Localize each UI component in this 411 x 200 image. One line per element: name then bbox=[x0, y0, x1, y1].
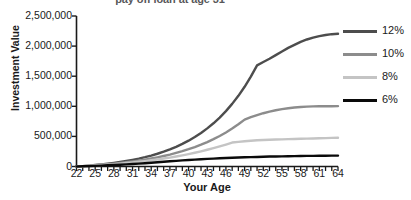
legend-label: 8% bbox=[382, 70, 398, 82]
legend: 12%10%8%6% bbox=[343, 22, 411, 114]
investment-growth-chart: pay off loan at age 31 Investment Value … bbox=[0, 0, 411, 200]
legend-item[interactable]: 10% bbox=[343, 45, 411, 68]
series-line-10pct bbox=[77, 106, 339, 166]
series-line-6pct bbox=[77, 156, 339, 167]
series-line-12pct bbox=[77, 34, 339, 167]
data-series-group bbox=[77, 34, 339, 167]
legend-item[interactable]: 12% bbox=[343, 22, 411, 45]
legend-color-swatch bbox=[343, 53, 377, 56]
legend-item[interactable]: 6% bbox=[343, 91, 411, 114]
legend-label: 10% bbox=[382, 47, 404, 59]
legend-color-swatch bbox=[343, 99, 377, 102]
legend-label: 12% bbox=[382, 24, 404, 36]
legend-label: 6% bbox=[382, 93, 398, 105]
legend-color-swatch bbox=[343, 76, 377, 79]
legend-item[interactable]: 8% bbox=[343, 68, 411, 91]
legend-color-swatch bbox=[343, 30, 377, 33]
axis-lines bbox=[77, 16, 339, 167]
